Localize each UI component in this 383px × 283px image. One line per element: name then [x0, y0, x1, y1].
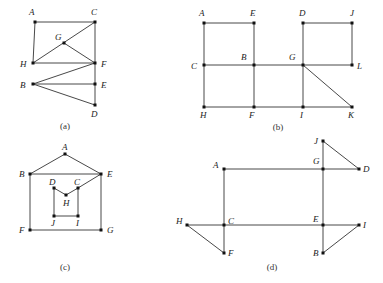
vertex-label: E [106, 169, 113, 179]
graph-diagrams-canvas: ACGHFBED(a)AEDJCBGLHFIK(b)ABEDCHJIFG(c)J… [0, 0, 383, 283]
vertex-label: F [248, 110, 255, 120]
edge-H-C [66, 188, 78, 195]
vertex-A [64, 153, 67, 156]
vertex-H [186, 224, 189, 227]
graph-figure-a: ACGHFBED(a) [19, 7, 107, 131]
figure-caption: (b) [273, 122, 284, 132]
vertex-J [322, 140, 325, 143]
vertex-label: B [313, 248, 319, 258]
vertex-B [29, 173, 32, 176]
vertex-A [203, 22, 206, 25]
vertex-label: I [362, 220, 367, 230]
edge-B-F [33, 63, 95, 84]
vertex-label: B [19, 169, 25, 179]
vertex-label: I [75, 218, 80, 228]
vertex-E [253, 22, 256, 25]
vertex-G [100, 229, 103, 232]
vertex-H [65, 194, 68, 197]
vertex-label: B [20, 80, 26, 90]
vertex-label: D [362, 164, 370, 174]
edge-B-D [33, 84, 95, 105]
vertex-label: C [228, 216, 235, 226]
vertex-label: D [48, 177, 56, 187]
edge-D-H [54, 188, 66, 195]
vertex-J [351, 22, 354, 25]
vertex-label: A [61, 142, 68, 152]
edge-E-C [78, 174, 101, 188]
vertex-F [94, 62, 97, 65]
vertex-label: C [191, 61, 198, 71]
edge-J-D [323, 141, 359, 169]
vertex-D [302, 22, 305, 25]
vertex-D [94, 104, 97, 107]
vertex-label: J [314, 136, 319, 146]
vertex-label: H [62, 198, 70, 208]
vertex-B [32, 83, 35, 86]
vertex-L [351, 64, 354, 67]
vertex-label: H [175, 216, 183, 226]
vertex-F [223, 252, 226, 255]
figure-caption: (d) [267, 262, 278, 272]
vertex-label: E [312, 214, 319, 224]
vertex-C [223, 224, 226, 227]
vertex-label: G [107, 225, 114, 235]
vertex-K [351, 106, 354, 109]
edge-A-B [30, 154, 65, 174]
vertex-label: F [227, 248, 234, 258]
edge-A-E [65, 154, 101, 174]
edge-B-I [323, 225, 359, 253]
vertex-E [322, 224, 325, 227]
vertex-label: G [313, 156, 320, 166]
figure-caption: (a) [60, 121, 70, 131]
vertex-G [322, 168, 325, 171]
vertex-label: G [55, 32, 62, 42]
vertex-label: H [19, 59, 27, 69]
vertex-B [322, 252, 325, 255]
vertex-label: F [18, 225, 25, 235]
vertex-G [302, 64, 305, 67]
vertex-label: C [91, 7, 98, 17]
vertex-label: E [249, 8, 256, 18]
vertex-A [34, 21, 37, 24]
vertex-H [203, 106, 206, 109]
vertex-label: D [90, 109, 98, 119]
vertex-label: J [350, 8, 355, 18]
edge-G-F [64, 43, 95, 63]
graph-figure-c: ABEDCHJIFG(c) [18, 142, 114, 272]
vertex-label: E [100, 80, 107, 90]
vertex-label: A [212, 160, 219, 170]
vertex-C [203, 64, 206, 67]
vertex-I [302, 106, 305, 109]
vertex-I [358, 224, 361, 227]
edge-H-F [187, 225, 224, 253]
vertex-label: F [100, 59, 107, 69]
vertex-label: A [28, 7, 35, 17]
graph-figure-b: AEDJCBGLHFIK(b) [191, 8, 362, 132]
vertex-label: J [51, 218, 56, 228]
vertex-H [32, 62, 35, 65]
vertex-E [94, 83, 97, 86]
edge-G-K [303, 65, 352, 107]
vertex-label: C [74, 177, 81, 187]
vertex-G [63, 42, 66, 45]
vertex-E [100, 173, 103, 176]
vertex-label: A [198, 8, 205, 18]
figure-caption: (c) [60, 262, 70, 272]
vertex-F [253, 106, 256, 109]
vertex-label: L [356, 61, 362, 71]
vertex-label: H [199, 110, 207, 120]
vertex-B [253, 64, 256, 67]
graph-figure-d: JAGDHCEIFB(d) [175, 136, 370, 272]
vertex-C [94, 21, 97, 24]
vertex-D [358, 168, 361, 171]
vertex-label: K [347, 110, 355, 120]
vertex-label: G [289, 52, 296, 62]
vertex-F [29, 229, 32, 232]
vertex-label: I [299, 110, 304, 120]
edge-A-H [33, 22, 35, 63]
vertex-A [223, 168, 226, 171]
vertex-label: D [298, 8, 306, 18]
vertex-label: B [241, 52, 247, 62]
